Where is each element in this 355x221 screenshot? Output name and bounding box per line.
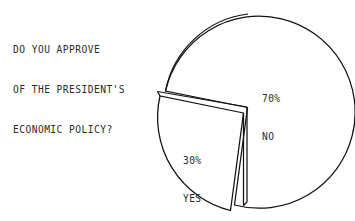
slice-label-no-name: NO xyxy=(262,131,287,144)
slice-label-no-percent: 70% xyxy=(262,93,287,106)
question-line-1: DO YOU APPROVE xyxy=(13,43,125,56)
slice-label-yes: 30% YES xyxy=(183,130,208,221)
question-line-2: OF THE PRESIDENT'S xyxy=(13,83,125,96)
pie-chart-figure: DO YOU APPROVE OF THE PRESIDENT'S ECONOM… xyxy=(0,0,355,221)
slice-label-no: 70% NO xyxy=(262,68,287,169)
question-line-3: ECONOMIC POLICY? xyxy=(13,123,125,136)
slice-label-yes-percent: 30% xyxy=(183,155,208,168)
slice-label-yes-name: YES xyxy=(183,193,208,206)
chart-question-title: DO YOU APPROVE OF THE PRESIDENT'S ECONOM… xyxy=(13,17,125,162)
